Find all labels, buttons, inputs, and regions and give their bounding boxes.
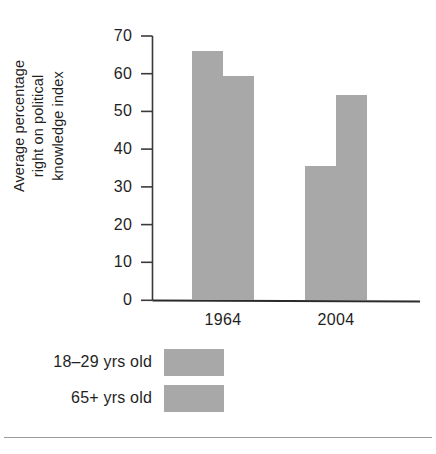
legend-swatch-18-29 bbox=[164, 349, 224, 376]
x-tick-label-2004: 2004 bbox=[318, 312, 355, 328]
chart-legend: 18–29 yrs old 65+ yrs old bbox=[0, 344, 436, 416]
legend-item-65-plus: 65+ yrs old bbox=[0, 380, 436, 416]
x-axis-tick-labels: 1964 2004 bbox=[0, 0, 436, 336]
legend-label-65-plus: 65+ yrs old bbox=[0, 389, 152, 407]
plot-area: Average percentage right on political kn… bbox=[0, 0, 436, 336]
footer-divider bbox=[4, 437, 432, 438]
legend-label-18-29: 18–29 yrs old bbox=[0, 353, 152, 371]
legend-item-18-29: 18–29 yrs old bbox=[0, 344, 436, 380]
legend-swatch-65-plus bbox=[164, 385, 224, 412]
bar-chart-figure: Average percentage right on political kn… bbox=[0, 0, 436, 454]
x-tick-label-1964: 1964 bbox=[205, 312, 242, 328]
